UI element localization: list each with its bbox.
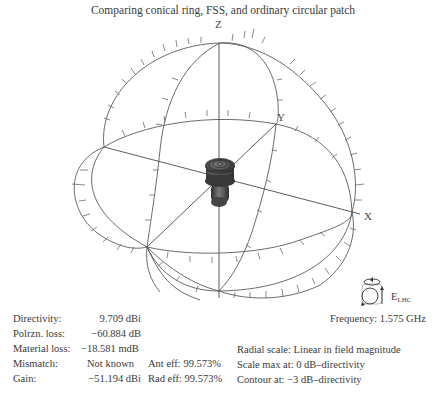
efficiency-block: Ant eff: 99.573% Rad eff: 99.573% [148,356,222,386]
rad-eff: Rad eff: 99.573% [148,371,222,386]
scale-max: Scale max at: 0 dB–directivity [237,357,401,372]
ant-eff: Ant eff: 99.573% [148,356,222,371]
polarization-label: ELHC [391,291,411,304]
scale-info: Radial scale: Linear in field magnitude … [237,342,401,387]
radial-scale: Radial scale: Linear in field magnitude [237,342,401,357]
contour: Contour at: −3 dB–directivity [237,372,401,387]
y-axis-label: Y [277,111,285,123]
stat-mismatch: Mismatch: Not known [13,356,145,371]
stat-polarization-loss: Polrzn. loss: −60.884 dB [13,326,145,341]
frequency-label: Frequency: 1.575 GHz [330,313,426,324]
z-axis-label: Z [215,18,222,30]
x-axis-label: X [364,210,372,222]
stats-table: Directivity: 9.709 dBi Polrzn. loss: −60… [13,311,145,386]
radiation-pattern-shape [205,158,235,207]
stat-gain: Gain: −51.194 dBi [13,371,145,386]
stat-material-loss: Material loss: −18.581 mdB [13,341,145,356]
stat-directivity: Directivity: 9.709 dBi [13,311,145,326]
rotation-cube-icon [356,276,390,310]
